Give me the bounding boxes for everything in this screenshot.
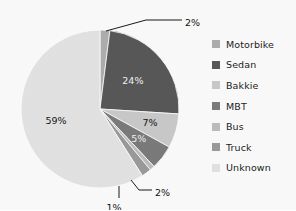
legend: MotorbikeSedanBakkieMBTBusTruckUnknown	[212, 34, 296, 178]
legend-item-mbt[interactable]: MBT	[212, 96, 296, 117]
legend-item-label: Motorbike	[226, 39, 274, 50]
legend-item-sedan[interactable]: Sedan	[212, 55, 296, 76]
legend-item-label: Truck	[226, 142, 252, 153]
leader-line-truck	[131, 180, 152, 190]
legend-swatch-icon	[212, 102, 220, 110]
data-label-bakkie: 7%	[143, 117, 158, 128]
data-label-mbt: 5%	[131, 133, 146, 144]
legend-swatch-icon	[212, 40, 220, 48]
pie-svg: 2%24%7%5%1%2%59%	[0, 0, 200, 210]
legend-item-label: Sedan	[226, 59, 256, 70]
pie-slice-sedan[interactable]	[100, 31, 179, 114]
legend-item-bakkie[interactable]: Bakkie	[212, 75, 296, 96]
legend-item-label: MBT	[226, 101, 247, 112]
legend-swatch-icon	[212, 81, 220, 89]
legend-swatch-icon	[212, 164, 220, 172]
legend-item-label: Bus	[226, 121, 244, 132]
leader-line-motorbike	[106, 20, 182, 31]
legend-swatch-icon	[212, 61, 220, 69]
data-label-bus: 1%	[106, 202, 121, 211]
pie-chart-figure: 2%24%7%5%1%2%59% MotorbikeSedanBakkieMBT…	[0, 0, 296, 210]
data-label-motorbike: 2%	[185, 17, 200, 28]
legend-item-truck[interactable]: Truck	[212, 137, 296, 158]
pie-plot-area: 2%24%7%5%1%2%59%	[0, 0, 200, 210]
legend-item-bus[interactable]: Bus	[212, 116, 296, 137]
legend-item-label: Bakkie	[226, 80, 258, 91]
pie-slices-group	[21, 30, 179, 188]
legend-item-label: Unknown	[226, 162, 271, 173]
data-label-sedan: 24%	[122, 75, 143, 86]
legend-item-motorbike[interactable]: Motorbike	[212, 34, 296, 55]
legend-swatch-icon	[212, 143, 220, 151]
data-label-unknown: 59%	[45, 115, 66, 126]
legend-item-unknown[interactable]: Unknown	[212, 158, 296, 179]
data-label-truck: 2%	[155, 187, 170, 198]
legend-swatch-icon	[212, 123, 220, 131]
